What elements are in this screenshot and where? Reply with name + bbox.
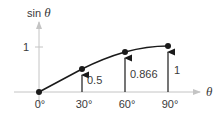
y-axis-label: sin θ — [27, 5, 51, 20]
point-60 — [122, 49, 128, 55]
x-label-0: 0° — [35, 98, 46, 110]
point-30 — [79, 66, 85, 72]
point-90 — [165, 43, 171, 49]
x-axis-label: θ — [206, 84, 213, 99]
point-0 — [36, 89, 42, 95]
value-label-30: 0.5 — [87, 74, 102, 86]
x-label-30: 30° — [76, 98, 93, 110]
x-label-90: 90° — [162, 98, 179, 110]
x-label-60: 60° — [119, 98, 136, 110]
value-label-90: 1 — [174, 64, 180, 76]
sine-diagram: sin θ 1 θ 0° 30° 60° 90° 0.5 0.866 1 — [0, 0, 220, 117]
y-tick-label: 1 — [23, 41, 29, 53]
value-label-60: 0.866 — [130, 68, 158, 80]
